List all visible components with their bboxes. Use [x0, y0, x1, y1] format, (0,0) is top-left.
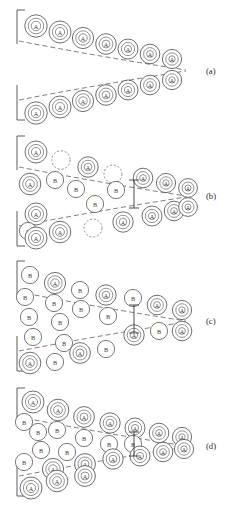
atom-a: A [44, 272, 65, 293]
panel-c: BABABAABBBBBBBBABABABA(c) [16, 261, 215, 374]
atom-a: A [25, 15, 47, 37]
atom-ring [107, 181, 124, 198]
atom-ring [71, 281, 88, 298]
atom-a: A [25, 102, 47, 124]
atom-a: A [47, 399, 69, 421]
atom-a: A [72, 27, 93, 48]
atom-ring [75, 429, 92, 446]
atom-a: A [70, 343, 91, 364]
atom-b: B [86, 195, 103, 212]
crack-tip-diagram: AAAAAAAAAAAAAA(a)AAAAAABBBBABAAAAAA(b)BA… [0, 0, 236, 513]
atom-a: A [96, 34, 117, 55]
atom-a: A [133, 168, 153, 188]
atom-a: A [22, 391, 44, 413]
atom-outer-ring [140, 44, 160, 64]
atom-b: B [75, 429, 92, 446]
panel-label-a: (a) [206, 66, 216, 76]
panel-label-c: (c) [206, 316, 216, 326]
atom-a: A [179, 198, 198, 217]
atom-ring [16, 288, 33, 305]
atom-ring [124, 289, 141, 306]
atom-a: A [162, 70, 181, 89]
atom-a: A [140, 44, 160, 64]
atom-b: B [107, 181, 124, 198]
atom-outer-ring [125, 418, 145, 438]
atom-a: A [74, 407, 95, 428]
atom-a: A [113, 212, 133, 232]
atom-outer-ring [153, 442, 173, 462]
atom-ring [72, 300, 89, 317]
panel-label-b: (b) [206, 191, 216, 201]
vacancy-ring [84, 219, 102, 237]
atom-ring [32, 441, 49, 458]
atom-a: A [100, 413, 120, 433]
atom-ring [86, 195, 103, 212]
atom-outer-ring [172, 300, 191, 319]
atom-ring [150, 322, 167, 339]
atom-b: B [97, 340, 114, 357]
figure-root: AAAAAAAAAAAAAA(a)AAAAAABBBBABAAAAAA(b)BA… [0, 0, 236, 513]
atom-outer-ring [118, 39, 138, 59]
atom-b: B [71, 281, 88, 298]
atom-outer-ring [133, 168, 153, 188]
atom-a: A [96, 285, 116, 305]
panels-group: AAAAAAAAAAAAAA(a)AAAAAABBBBABAAAAAA(b)BA… [15, 10, 216, 499]
atom-a: A [78, 157, 98, 177]
atom-a: A [162, 49, 181, 68]
atom-b: B [99, 307, 116, 324]
vacancy-ring [104, 165, 122, 183]
atom-ring [46, 171, 63, 188]
atom-a: A [46, 470, 68, 492]
atom-b: B [29, 423, 46, 440]
atom-outer-ring [118, 80, 138, 100]
atom-ring [15, 453, 32, 470]
atom-ring [20, 308, 37, 325]
vacancy-ring [52, 151, 70, 169]
atom-ring [58, 443, 75, 460]
atom-a: A [179, 179, 198, 198]
atom-a: A [49, 221, 71, 243]
atom-vacancy [84, 219, 102, 237]
atom-a: A [172, 321, 192, 341]
atom-b: B [72, 300, 89, 317]
atom-ring [99, 307, 116, 324]
atom-ring [67, 180, 84, 197]
atom-b: B [46, 171, 63, 188]
atom-ring [97, 340, 114, 357]
atom-vacancy [52, 151, 70, 169]
atom-outer-ring [162, 49, 181, 68]
atom-outer-ring [179, 198, 198, 217]
atom-a: A [174, 439, 193, 458]
atom-ring [51, 313, 68, 330]
atom-a: A [49, 96, 71, 118]
atom-b: B [150, 322, 167, 339]
atom-a: A [172, 300, 191, 319]
atom-ring [46, 353, 63, 370]
atom-b: B [124, 289, 141, 306]
atom-outer-ring [149, 423, 169, 443]
atom-b: B [24, 328, 41, 345]
atom-a: A [142, 206, 162, 226]
atom-outer-ring [156, 173, 175, 192]
atom-b: B [16, 288, 33, 305]
atom-ring [45, 294, 62, 311]
atom-a: A [19, 352, 41, 374]
atom-b: B [48, 421, 65, 438]
atom-ring [48, 421, 65, 438]
atom-outer-ring [179, 179, 198, 198]
atom-ring [24, 328, 41, 345]
atom-outer-ring [172, 321, 192, 341]
atom-a: A [156, 173, 175, 192]
panel-b: AAAAAABBBBABAAAAAA(b) [17, 136, 216, 249]
atom-b: B [46, 353, 63, 370]
atom-a: A [20, 477, 42, 499]
atom-outer-ring [162, 70, 181, 89]
panel-label-d: (d) [206, 441, 216, 451]
atom-a: A [19, 173, 41, 195]
atom-a: A [147, 295, 167, 315]
atom-ring [21, 266, 38, 283]
atom-b: B [21, 266, 38, 283]
atom-ring [29, 423, 46, 440]
atom-a: A [140, 75, 160, 95]
atom-b: B [20, 308, 37, 325]
